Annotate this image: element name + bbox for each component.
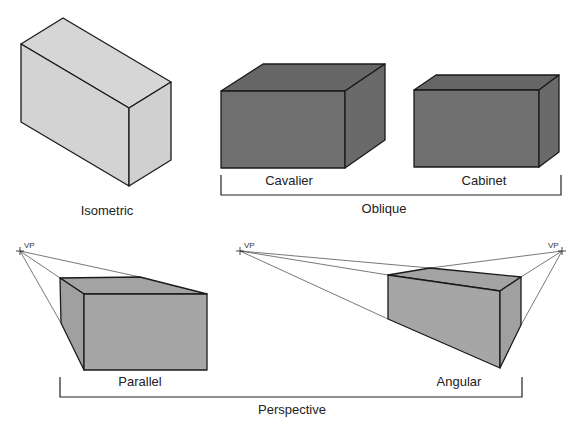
parallel-label: Parallel bbox=[118, 374, 161, 389]
cabinet-label: Cabinet bbox=[462, 173, 507, 188]
parallel-vp-label: VP bbox=[24, 241, 35, 250]
drawing-types-diagram: Isometric Cavalier Cabinet Oblique VP bbox=[0, 0, 579, 426]
parallel-vp-marker bbox=[16, 247, 24, 255]
cavalier-front-face bbox=[221, 91, 345, 168]
parallel-top-face bbox=[60, 277, 207, 294]
cabinet-top-face bbox=[414, 75, 559, 90]
parallel-front-face bbox=[84, 294, 207, 370]
isometric-label: Isometric bbox=[81, 203, 134, 218]
oblique-label: Oblique bbox=[362, 201, 407, 216]
angular-label: Angular bbox=[437, 374, 482, 389]
angular-left-vp-marker bbox=[236, 247, 244, 255]
angular-box bbox=[388, 268, 521, 368]
cabinet-box bbox=[414, 75, 559, 167]
cabinet-side-face bbox=[539, 75, 559, 167]
cavalier-label: Cavalier bbox=[265, 173, 313, 188]
isometric-box bbox=[21, 18, 171, 186]
parallel-side-face bbox=[60, 278, 84, 370]
angular-right-vp-label: VP bbox=[548, 241, 559, 250]
cavalier-box bbox=[221, 64, 385, 168]
angular-right-face bbox=[500, 277, 521, 368]
angular-left-vp-label: VP bbox=[244, 241, 255, 250]
angular-left-face bbox=[388, 275, 500, 368]
perspective-label: Perspective bbox=[258, 402, 326, 417]
angular-right-vp-marker bbox=[558, 247, 566, 255]
cabinet-front-face bbox=[414, 90, 539, 167]
parallel-box bbox=[60, 277, 207, 370]
